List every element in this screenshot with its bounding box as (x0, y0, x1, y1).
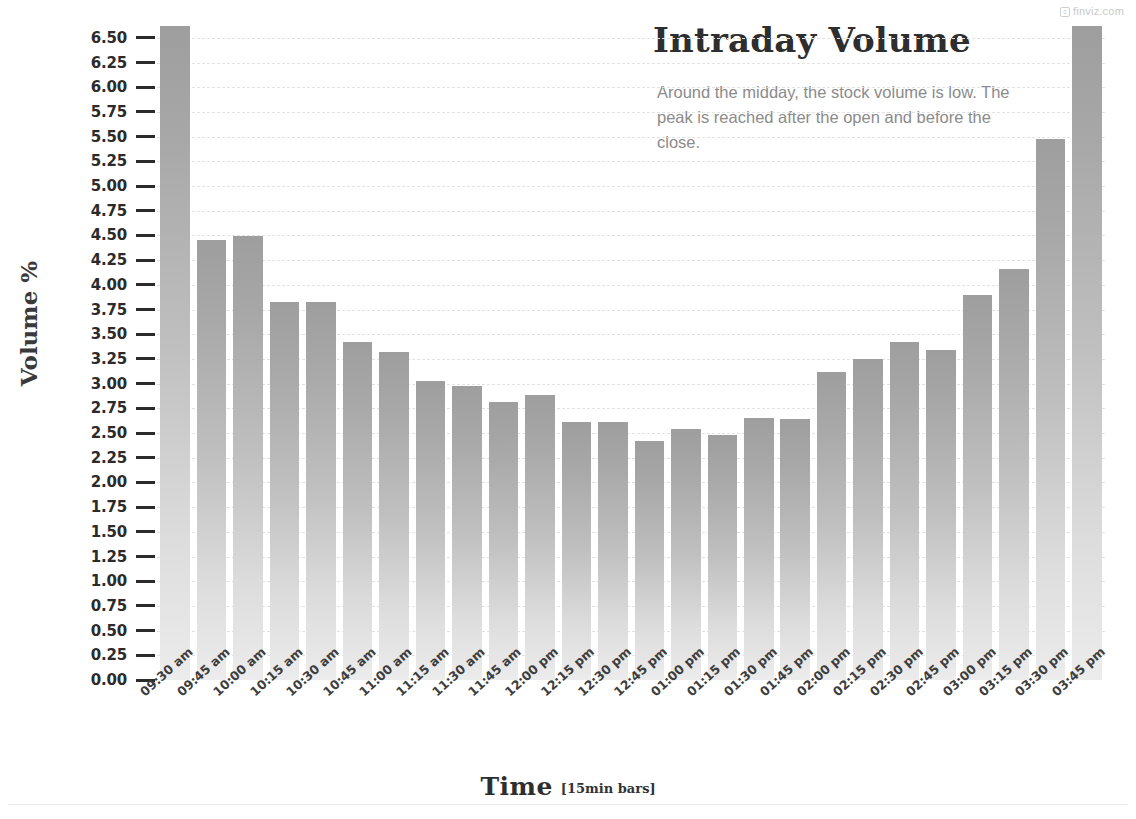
bar[interactable] (598, 422, 628, 680)
bar-slot (303, 26, 339, 680)
bar[interactable] (853, 359, 883, 680)
y-axis-tick-label: 2.75 (91, 399, 127, 417)
y-axis-tick-label: 0.00 (91, 671, 127, 689)
x-axis-title: Time[15min bars] (0, 772, 1136, 801)
y-axis-tick-label: 1.25 (91, 548, 127, 566)
y-axis-tick: 4.00 (91, 277, 155, 293)
bar-slot (996, 26, 1032, 680)
bar[interactable] (525, 395, 555, 680)
bar[interactable] (270, 302, 300, 680)
y-axis-tick: 3.50 (91, 326, 155, 342)
y-axis-tick-label: 6.25 (91, 54, 127, 72)
y-axis-tick: 1.25 (91, 549, 155, 565)
y-axis-tick-dash (136, 382, 155, 385)
y-axis-tick: 2.00 (91, 474, 155, 490)
bar[interactable] (963, 295, 993, 680)
y-axis-tick-dash (136, 234, 155, 237)
bar-slot (157, 26, 193, 680)
bar-slot (704, 26, 740, 680)
y-axis-tick: 6.00 (91, 79, 155, 95)
x-axis-tick: 03:45 pm (1069, 680, 1105, 770)
y-axis-tick: 0.50 (91, 623, 155, 639)
y-axis-tick: 6.25 (91, 55, 155, 71)
y-axis-tick: 1.00 (91, 573, 155, 589)
y-axis-tick: 1.75 (91, 499, 155, 515)
bar-slot (339, 26, 375, 680)
bar[interactable] (197, 240, 227, 680)
y-axis-tick-dash (136, 555, 155, 558)
y-axis-tick-dash (136, 357, 155, 360)
y-axis-tick-dash (136, 110, 155, 113)
y-axis-tick-dash (136, 209, 155, 212)
bar[interactable] (562, 422, 592, 680)
y-axis-tick-dash (136, 135, 155, 138)
bar-slot (266, 26, 302, 680)
bar[interactable] (343, 342, 373, 680)
bar-slot (449, 26, 485, 680)
bar[interactable] (671, 429, 701, 680)
bar[interactable] (780, 419, 810, 680)
bar-slot (813, 26, 849, 680)
bar-slot (412, 26, 448, 680)
y-axis-tick-label: 5.00 (91, 177, 127, 195)
x-axis-ticks: 09:30 am09:45 am10:00 am10:15 am10:30 am… (157, 680, 1105, 770)
y-axis-tick: 4.25 (91, 252, 155, 268)
bar[interactable] (926, 350, 956, 680)
bar[interactable] (233, 236, 263, 680)
intraday-volume-chart: cfinviz.com Intraday Volume Around the m… (0, 0, 1136, 819)
bar[interactable] (452, 386, 482, 680)
bar[interactable] (306, 302, 336, 680)
y-axis-tick-label: 1.50 (91, 523, 127, 541)
bar[interactable] (416, 381, 446, 680)
y-axis-tick-dash (136, 506, 155, 509)
y-axis-tick-dash (136, 333, 155, 336)
bar[interactable] (379, 352, 409, 680)
bar[interactable] (160, 26, 190, 680)
bar[interactable] (489, 402, 519, 680)
y-axis-tick-dash (136, 481, 155, 484)
bar[interactable] (890, 342, 920, 680)
y-axis-tick-label: 5.50 (91, 128, 127, 146)
bar-slot (376, 26, 412, 680)
y-axis-tick-dash (136, 654, 155, 657)
bar-slot (193, 26, 229, 680)
bar[interactable] (1036, 139, 1066, 680)
y-axis-tick-dash (136, 61, 155, 64)
y-axis-tick: 0.75 (91, 598, 155, 614)
bar-slot (668, 26, 704, 680)
y-axis-tick: 5.00 (91, 178, 155, 194)
y-axis-tick: 2.75 (91, 400, 155, 416)
y-axis-tick: 0.25 (91, 647, 155, 663)
bar-slot (230, 26, 266, 680)
bar-slot (923, 26, 959, 680)
y-axis-tick: 3.00 (91, 376, 155, 392)
y-axis-tick-dash (136, 283, 155, 286)
y-axis-tick: 1.50 (91, 524, 155, 540)
bar[interactable] (744, 418, 774, 680)
x-axis-title-main: Time (480, 772, 552, 801)
y-axis-tick-label: 5.75 (91, 103, 127, 121)
y-axis-tick: 2.50 (91, 425, 155, 441)
y-axis-tick-dash (136, 530, 155, 533)
bar-slot (777, 26, 813, 680)
y-axis-tick-label: 1.75 (91, 498, 127, 516)
plot-area (157, 26, 1105, 680)
y-axis-tick: 3.75 (91, 302, 155, 318)
y-axis-tick-label: 3.00 (91, 375, 127, 393)
bar[interactable] (817, 372, 847, 680)
y-axis-tick-dash (136, 36, 155, 39)
y-axis-tick-dash (136, 407, 155, 410)
y-axis-tick-label: 3.50 (91, 325, 127, 343)
watermark-label: finviz.com (1073, 5, 1124, 17)
copyright-icon: c (1060, 7, 1070, 17)
bar-slot (741, 26, 777, 680)
y-axis-tick: 4.50 (91, 227, 155, 243)
bar-series (157, 26, 1105, 680)
y-axis-tick-dash (136, 604, 155, 607)
bar-slot (558, 26, 594, 680)
bar-slot (595, 26, 631, 680)
bar[interactable] (999, 269, 1029, 680)
y-axis-tick: 5.50 (91, 129, 155, 145)
bar-slot (886, 26, 922, 680)
bar[interactable] (1072, 26, 1102, 680)
